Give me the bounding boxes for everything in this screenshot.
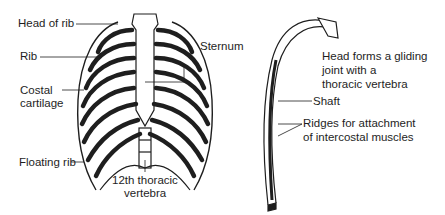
- label-floating-rib: Floating rib: [19, 156, 76, 169]
- label-sternum: Sternum: [200, 40, 243, 53]
- rib-cage-diagram: [0, 0, 445, 215]
- label-costal-cartilage-2: cartilage: [20, 97, 63, 110]
- label-ridges-1: Ridges for attachment: [303, 117, 416, 130]
- label-ridges-2: of intercostal muscles: [303, 131, 414, 144]
- label-head-2: joint with a: [322, 64, 376, 77]
- label-head-3: thoracic vertebra: [322, 78, 408, 91]
- label-vertebra-2: vertebra: [124, 187, 166, 200]
- label-head-of-rib: Head of rib: [18, 17, 74, 30]
- label-rib: Rib: [20, 50, 37, 63]
- label-vertebra-1: 12th thoracic: [112, 174, 178, 187]
- label-shaft: Shaft: [313, 95, 340, 108]
- label-costal-cartilage-1: Costal: [20, 84, 53, 97]
- label-head-1: Head forms a gliding: [322, 50, 427, 63]
- single-rib-drawing: [264, 18, 338, 211]
